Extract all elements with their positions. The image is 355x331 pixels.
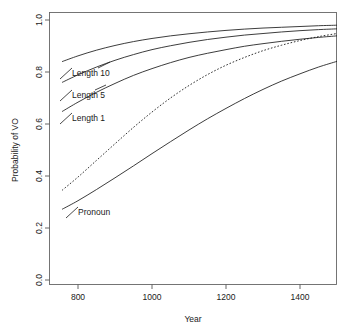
label-length-1: Length 1 xyxy=(72,113,105,123)
x-tick-label-800: 800 xyxy=(71,292,85,302)
x-axis-title: Year xyxy=(184,314,201,324)
y-tick-label-0.2: 0.2 xyxy=(34,222,44,234)
y-tick-label-1.0: 1.0 xyxy=(34,14,44,26)
label-length-5: Length 5 xyxy=(72,90,105,100)
y-axis-title: Probability of VO xyxy=(10,118,20,182)
y-tick-label-0.0: 0.0 xyxy=(34,274,44,286)
x-tick-label-1200: 1200 xyxy=(217,292,236,302)
y-tick-label-0.8: 0.8 xyxy=(34,66,44,78)
x-tick-label-1400: 1400 xyxy=(291,292,310,302)
y-tick-label-0.4: 0.4 xyxy=(34,170,44,182)
label-length-10: Length 10 xyxy=(72,68,110,78)
x-tick-label-1000: 1000 xyxy=(143,292,162,302)
figure-background xyxy=(0,0,355,331)
chart-container: 1.0 0.8 0.6 0.4 0.2 0.0 Probability of V… xyxy=(0,0,355,331)
probability-of-vo-line-chart: 1.0 0.8 0.6 0.4 0.2 0.0 Probability of V… xyxy=(0,0,355,331)
label-pronoun: Pronoun xyxy=(78,207,110,217)
y-tick-label-0.6: 0.6 xyxy=(34,118,44,130)
